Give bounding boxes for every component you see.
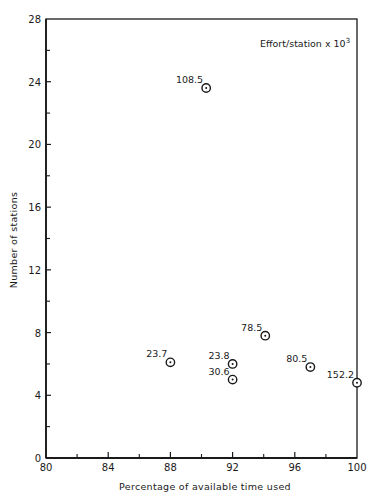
x-axis-title: Percentage of available time used bbox=[119, 481, 291, 492]
y-tick-label: 16 bbox=[28, 202, 41, 213]
effort-annotation-text: Effort/station x 10 bbox=[260, 38, 346, 49]
y-tick-label: 4 bbox=[35, 390, 41, 401]
point-label: 80.5 bbox=[286, 353, 307, 364]
data-point: 108.5 bbox=[176, 74, 210, 92]
scatter-chart: 8084889296100 0481216202428 108.523.723.… bbox=[0, 0, 380, 500]
point-label: 30.6 bbox=[208, 366, 229, 377]
marker-center-dot bbox=[232, 363, 234, 365]
point-label: 152.2 bbox=[327, 369, 354, 380]
point-label: 108.5 bbox=[176, 74, 203, 85]
marker-center-dot bbox=[205, 87, 207, 89]
point-label: 23.7 bbox=[146, 348, 167, 359]
x-tick-label: 80 bbox=[40, 462, 53, 473]
y-tick-label: 12 bbox=[28, 265, 41, 276]
y-axis-title: Number of stations bbox=[8, 192, 19, 288]
point-label: 23.8 bbox=[208, 350, 229, 361]
data-point: 78.5 bbox=[241, 322, 269, 340]
data-points: 108.523.723.830.678.580.5152.2 bbox=[146, 74, 361, 387]
y-tick-label: 20 bbox=[28, 139, 41, 150]
x-tick-label: 96 bbox=[288, 462, 301, 473]
marker-center-dot bbox=[264, 335, 266, 337]
y-tick-label: 0 bbox=[35, 453, 41, 464]
x-tick-label: 92 bbox=[226, 462, 239, 473]
x-tick-label: 88 bbox=[164, 462, 177, 473]
marker-center-dot bbox=[169, 361, 171, 363]
marker-center-dot bbox=[309, 366, 311, 368]
effort-annotation-exponent: 3 bbox=[346, 37, 350, 45]
y-tick-label: 24 bbox=[28, 77, 41, 88]
y-tick-label: 8 bbox=[35, 328, 41, 339]
x-tick-label: 100 bbox=[347, 462, 366, 473]
point-label: 78.5 bbox=[241, 322, 262, 333]
marker-center-dot bbox=[356, 382, 358, 384]
data-point: 152.2 bbox=[327, 369, 361, 387]
data-point: 23.7 bbox=[146, 348, 174, 366]
data-point: 80.5 bbox=[286, 353, 314, 371]
x-axis-ticks: 8084889296100 bbox=[40, 452, 367, 473]
y-axis-ticks: 0481216202428 bbox=[28, 14, 51, 464]
marker-center-dot bbox=[232, 379, 234, 381]
y-tick-label: 28 bbox=[28, 14, 41, 25]
x-tick-label: 84 bbox=[102, 462, 115, 473]
effort-annotation: Effort/station x 103 bbox=[260, 37, 350, 49]
